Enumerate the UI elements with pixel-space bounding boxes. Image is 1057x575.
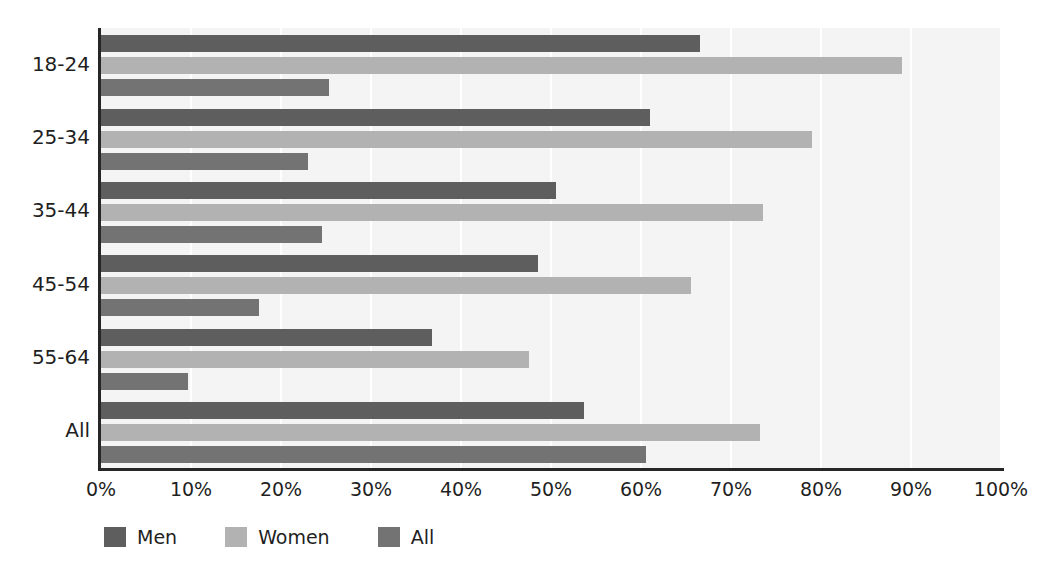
legend-item-women[interactable]: Women — [225, 526, 330, 548]
bar-women-18-24 — [101, 57, 902, 74]
x-tick-label-100pct: 100% — [961, 478, 1041, 500]
x-tick-label-10pct: 10% — [151, 478, 231, 500]
legend-label: Men — [137, 526, 177, 548]
bar-all-25-34 — [101, 153, 308, 170]
x-tick-label-90pct: 90% — [871, 478, 951, 500]
bar-women-45-54 — [101, 277, 691, 294]
gridline — [820, 28, 822, 468]
legend-swatch-women-icon — [225, 527, 247, 547]
legend-item-all[interactable]: All — [378, 526, 435, 548]
legend-item-men[interactable]: Men — [104, 526, 177, 548]
x-tick-label-60pct: 60% — [601, 478, 681, 500]
bar-women-35-44 — [101, 204, 763, 221]
x-axis-line — [98, 468, 1004, 471]
bar-men-18-24 — [101, 35, 700, 52]
x-tick-label-50pct: 50% — [511, 478, 591, 500]
bar-women-25-34 — [101, 131, 812, 148]
bar-men-25-34 — [101, 109, 650, 126]
y-tick-label-45-54: 45-54 — [0, 272, 90, 296]
legend-label: All — [411, 526, 435, 548]
y-axis-line — [98, 28, 101, 468]
bar-men-all — [101, 402, 584, 419]
chart-legend: MenWomenAll — [104, 526, 482, 548]
bar-women-all — [101, 424, 760, 441]
y-tick-label-18-24: 18-24 — [0, 52, 90, 76]
x-tick-label-70pct: 70% — [691, 478, 771, 500]
bar-men-55-64 — [101, 329, 432, 346]
gridline — [640, 28, 642, 468]
bar-all-all — [101, 446, 646, 463]
x-tick-label-80pct: 80% — [781, 478, 861, 500]
bar-men-45-54 — [101, 255, 538, 272]
x-tick-label-0pct: 0% — [61, 478, 141, 500]
x-tick-label-20pct: 20% — [241, 478, 321, 500]
legend-swatch-men-icon — [104, 527, 126, 547]
bar-all-35-44 — [101, 226, 322, 243]
bar-all-55-64 — [101, 373, 188, 390]
bar-all-18-24 — [101, 79, 329, 96]
y-tick-label-35-44: 35-44 — [0, 198, 90, 222]
x-tick-label-40pct: 40% — [421, 478, 501, 500]
bar-men-35-44 — [101, 182, 556, 199]
plot-area — [101, 28, 1001, 468]
gridline — [1000, 28, 1002, 468]
bar-women-55-64 — [101, 351, 529, 368]
legend-label: Women — [258, 526, 330, 548]
y-tick-label-55-64: 55-64 — [0, 345, 90, 369]
y-tick-label-25-34: 25-34 — [0, 125, 90, 149]
bar-chart: 18-2425-3435-4445-5455-64All 0%10%20%30%… — [0, 0, 1057, 575]
x-tick-label-30pct: 30% — [331, 478, 411, 500]
gridline — [910, 28, 912, 468]
bar-all-45-54 — [101, 299, 259, 316]
legend-swatch-all-icon — [378, 527, 400, 547]
y-tick-label-all: All — [0, 418, 90, 442]
gridline — [730, 28, 732, 468]
